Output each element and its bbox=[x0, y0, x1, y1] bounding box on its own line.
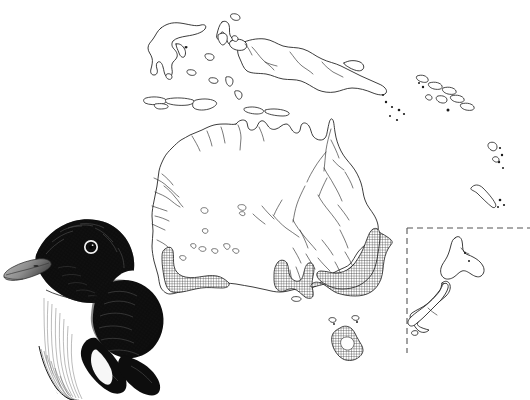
islands-vanuatu bbox=[488, 142, 504, 169]
islands-solomon bbox=[416, 75, 474, 111]
landmass-new-guinea bbox=[230, 39, 387, 95]
bird-eye bbox=[83, 239, 98, 254]
island-morotai bbox=[231, 14, 240, 21]
figure-canvas bbox=[0, 0, 530, 400]
island-kangaroo bbox=[292, 297, 301, 302]
bird-head-illustration bbox=[0, 198, 180, 400]
islands-small-dots bbox=[382, 94, 405, 121]
new-zealand-inset bbox=[407, 228, 530, 353]
island-new-caledonia bbox=[471, 185, 505, 208]
landmass-australia bbox=[152, 119, 378, 294]
landmass-tasmania bbox=[329, 316, 363, 361]
bill-nostril bbox=[33, 265, 38, 267]
landmass-sulawesi bbox=[148, 23, 206, 80]
